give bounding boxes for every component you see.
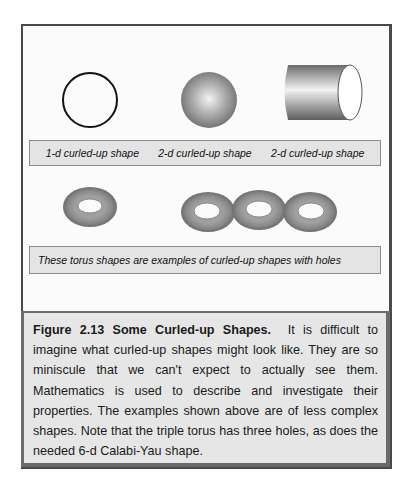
label-2d-sphere: 2-d curled-up shape — [158, 147, 251, 159]
figure-frame: 1-d curled-up shape 2-d curled-up shape … — [21, 24, 392, 469]
torus-label-bar: These torus shapes are examples of curle… — [29, 246, 381, 274]
shape-labels-bar: 1-d curled-up shape 2-d curled-up shape … — [29, 140, 381, 166]
sphere-shape — [181, 72, 237, 128]
label-1d-shape: 1-d curled-up shape — [46, 147, 139, 159]
cylinder-shape — [285, 65, 363, 120]
caption-body: It is difficult to imagine what curled-u… — [33, 323, 378, 458]
triple-torus-shape — [181, 190, 337, 232]
circle-shape — [63, 73, 117, 127]
caption-title: Figure 2.13 Some Curled-up Shapes. — [33, 323, 271, 337]
figure-illustration: 1-d curled-up shape 2-d curled-up shape … — [23, 26, 389, 311]
label-2d-cylinder: 2-d curled-up shape — [271, 147, 364, 159]
single-torus-shape — [63, 187, 117, 227]
figure-caption: Figure 2.13 Some Curled-up Shapes. It is… — [21, 311, 390, 467]
torus-label: These torus shapes are examples of curle… — [38, 254, 341, 266]
